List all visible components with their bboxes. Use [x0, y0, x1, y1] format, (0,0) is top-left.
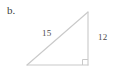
vertical-leg-length-label: 12: [98, 32, 107, 42]
hypotenuse-line: [27, 12, 88, 65]
geometry-figure: b. 15 12: [0, 0, 115, 77]
right-angle-marker-icon: [83, 60, 89, 66]
triangle-outline: [27, 12, 88, 65]
hypotenuse-length-label: 15: [42, 28, 51, 38]
